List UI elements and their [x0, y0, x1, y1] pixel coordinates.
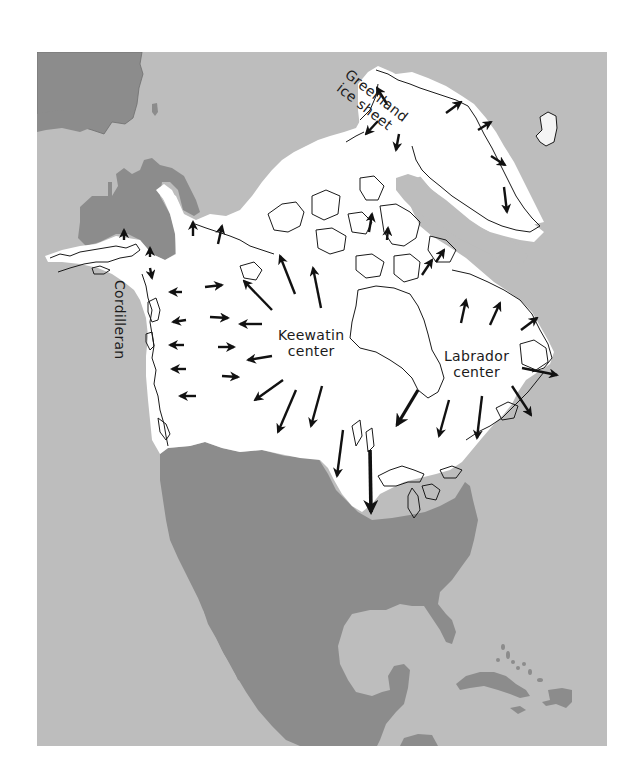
arrow-icon: [387, 228, 388, 240]
label-keewatin-line1: Keewatin: [278, 327, 344, 343]
label-labrador-line1: Labrador: [444, 348, 509, 364]
map-frame: [37, 52, 607, 746]
arrow-icon: [222, 376, 238, 377]
label-cordilleran: Cordilleran: [112, 280, 128, 360]
arrow-icon: [210, 317, 228, 318]
label-labrador-center: Labrador center: [444, 348, 509, 380]
arrow-icon: [370, 450, 371, 512]
label-cordilleran-text: Cordilleran: [112, 280, 128, 360]
label-keewatin-line2: center: [278, 343, 344, 359]
map-canvas: [37, 52, 607, 746]
label-keewatin-center: Keewatin center: [278, 327, 344, 359]
small-island: [108, 182, 112, 196]
label-labrador-line2: center: [444, 364, 509, 380]
